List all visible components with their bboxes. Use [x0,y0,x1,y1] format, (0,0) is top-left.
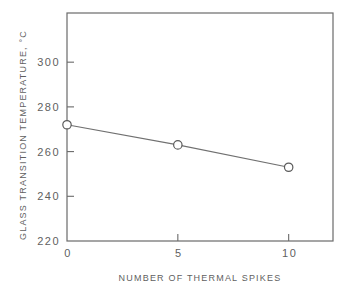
plot-frame [67,13,333,241]
x-tick-label: 0 [64,247,72,259]
y-axis-title: GLASS TRANSITION TEMPERATURE, °C [18,30,28,240]
y-tick-label: 240 [37,190,60,202]
plot-area: 2202402602803000510 [37,13,333,259]
y-tick-label: 260 [37,146,60,158]
data-point-marker [63,121,71,129]
data-point-marker [174,141,182,149]
x-tick-label: 10 [282,247,297,259]
data-point-marker [284,163,292,171]
chart: 2202402602803000510 NUMBER OF THERMAL SP… [0,0,349,287]
y-tick-label: 300 [37,56,60,68]
y-tick-label: 280 [37,101,60,113]
y-tick-label: 220 [37,235,60,247]
x-axis-title: NUMBER OF THERMAL SPIKES [119,273,282,283]
x-tick-label: 5 [175,247,183,259]
